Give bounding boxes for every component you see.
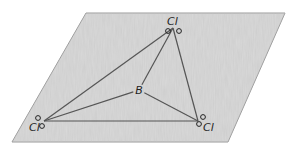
chlorine-label: Cl <box>203 121 214 134</box>
boron-atom-label: B <box>135 84 143 97</box>
bcl3-diagram: BClClCl <box>0 0 296 149</box>
diagram-canvas: BClClCl <box>0 0 296 149</box>
chlorine-label: Cl <box>167 15 178 28</box>
molecular-plane <box>12 13 285 142</box>
chlorine-label: Cl <box>29 121 40 134</box>
